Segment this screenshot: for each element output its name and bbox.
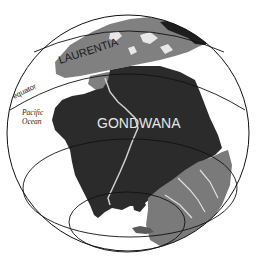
- globe-svg: LAURENTIA GONDWANA equator Pacific Ocean: [0, 0, 256, 258]
- ocean-label: Ocean: [22, 117, 42, 126]
- paleogeographic-globe-map: LAURENTIA GONDWANA equator Pacific Ocean: [0, 0, 256, 258]
- pacific-label: Pacific: [21, 108, 44, 117]
- gondwana-label: GONDWANA: [97, 115, 181, 131]
